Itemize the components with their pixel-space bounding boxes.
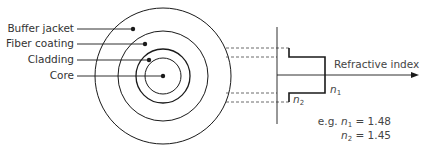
profile-n1-label: n1 bbox=[330, 83, 341, 97]
axis-label-refractive-index: Refractive index bbox=[334, 58, 419, 70]
example-n2-subscript: 2 bbox=[348, 135, 352, 143]
n1-symbol: n bbox=[330, 83, 337, 95]
arrow-head-icon bbox=[411, 72, 419, 78]
n1-subscript: 1 bbox=[337, 89, 341, 97]
label-fiber-coating: Fiber coating bbox=[6, 37, 74, 49]
example-n1-subscript: 1 bbox=[348, 121, 352, 129]
example-n2-line: n2 = 1.45 bbox=[341, 129, 391, 143]
index-axes bbox=[277, 27, 413, 124]
example-prefix: e.g. bbox=[318, 115, 338, 127]
dot-cladding bbox=[147, 58, 151, 62]
dot-buffer-jacket bbox=[131, 27, 135, 31]
label-buffer-jacket: Buffer jacket bbox=[7, 22, 74, 34]
example-n1-line: e.g. n1 = 1.48 bbox=[318, 115, 391, 129]
example-n2-value: = 1.45 bbox=[355, 129, 391, 141]
dot-core bbox=[161, 74, 165, 78]
example-n1-symbol: n bbox=[341, 115, 348, 127]
n2-symbol: n bbox=[293, 93, 300, 105]
dot-fiber-coating bbox=[143, 42, 147, 46]
profile-n2-label: n2 bbox=[293, 93, 304, 107]
label-cladding: Cladding bbox=[28, 53, 74, 65]
example-n1-value: = 1.48 bbox=[355, 115, 391, 127]
example-n2-symbol: n bbox=[341, 129, 348, 141]
label-core: Core bbox=[50, 69, 74, 81]
n2-subscript: 2 bbox=[300, 99, 304, 107]
